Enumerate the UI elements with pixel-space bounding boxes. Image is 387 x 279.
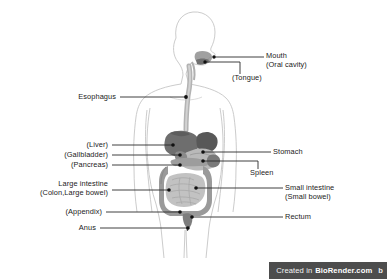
watermark-prefix: Created in <box>276 266 312 275</box>
label-mouth: Mouth (Oral cavity) <box>266 52 307 69</box>
label-gallbladder: (Gallbladder) <box>6 151 108 160</box>
label-liver: (Liver) <box>12 141 108 150</box>
label-tongue-line1: (Tongue) <box>232 73 262 82</box>
watermark-tail: b <box>378 266 383 275</box>
dot-liver <box>171 143 175 147</box>
dot-stomach <box>201 150 205 154</box>
label-mouth-line1: Mouth <box>266 51 287 60</box>
label-esophagus: Esophagus <box>24 93 116 102</box>
dot-anus <box>186 226 190 230</box>
label-spleen: Spleen <box>250 169 274 178</box>
label-stomach-line1: Stomach <box>273 147 303 156</box>
label-pancreas: (Pancreas) <box>8 161 108 170</box>
label-large-intestine-line2: (Colon,Large bowel) <box>4 189 108 198</box>
small-intestine-shape <box>166 173 206 207</box>
label-tongue: (Tongue) <box>232 74 262 83</box>
anatomy-illustration <box>0 0 387 279</box>
dot-tongue <box>203 60 206 63</box>
dot-large-intestine <box>167 188 171 192</box>
label-pancreas-line1: (Pancreas) <box>71 160 108 169</box>
dot-small-intestine <box>194 186 198 190</box>
biorender-watermark: Created in BioRender.com b <box>269 262 387 279</box>
diagram-canvas: Mouth (Oral cavity) (Tongue) Esophagus (… <box>0 0 387 279</box>
dot-mouth <box>212 55 215 58</box>
label-rectum: Rectum <box>285 213 311 222</box>
label-stomach: Stomach <box>273 148 303 157</box>
label-large-intestine-line1: Large intestine <box>58 179 108 188</box>
label-small-intestine: Small intestine (Small bowel) <box>285 184 334 201</box>
dot-esophagus <box>184 95 188 99</box>
label-anus-line1: Anus <box>79 223 96 232</box>
label-rectum-line1: Rectum <box>285 212 311 221</box>
label-anus: Anus <box>16 224 96 233</box>
dot-spleen <box>201 159 205 163</box>
dot-appendix <box>178 210 182 214</box>
label-mouth-line2: (Oral cavity) <box>266 61 307 70</box>
label-gallbladder-line1: (Gallbladder) <box>64 150 108 159</box>
label-small-intestine-line1: Small intestine <box>285 183 334 192</box>
label-liver-line1: (Liver) <box>86 140 108 149</box>
label-large-intestine: Large intestine (Colon,Large bowel) <box>4 180 108 197</box>
label-spleen-line1: Spleen <box>250 168 274 177</box>
dot-pancreas <box>178 163 182 167</box>
label-appendix-line1: (Appendix) <box>65 207 102 216</box>
dot-gallbladder <box>178 153 182 157</box>
watermark-brand: BioRender.com <box>315 266 372 275</box>
label-appendix: (Appendix) <box>8 208 102 217</box>
label-esophagus-line1: Esophagus <box>78 92 116 101</box>
dot-rectum <box>190 215 194 219</box>
label-small-intestine-line2: (Small bowel) <box>285 193 334 202</box>
